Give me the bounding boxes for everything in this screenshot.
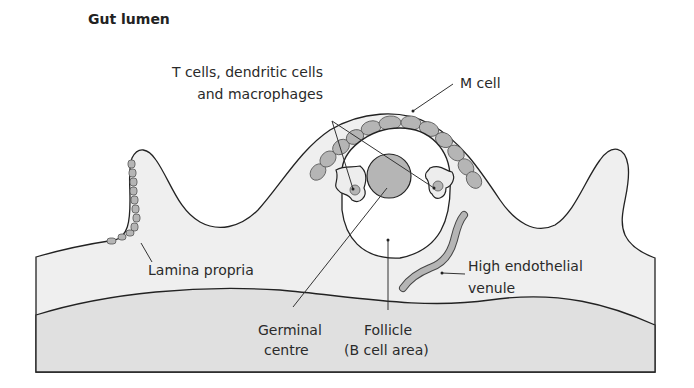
label-lamina-propria: Lamina propria (148, 262, 254, 279)
germinal-centre (367, 154, 411, 198)
label-germinal-2: centre (264, 342, 309, 359)
peyers-patch-diagram (0, 0, 694, 388)
label-follicle-2: (B cell area) (344, 342, 429, 359)
label-t-cells-2: and macrophages (160, 86, 323, 103)
label-hev-2: venule (468, 280, 515, 297)
dendritic-nucleus-left (350, 185, 360, 195)
label-hev-1: High endothelial (468, 258, 583, 275)
label-t-cells-1: T cells, dendritic cells (160, 64, 323, 81)
label-follicle-1: Follicle (364, 322, 412, 339)
dendritic-nucleus-right (433, 181, 443, 191)
label-germinal-1: Germinal (258, 322, 322, 339)
title-gut-lumen: Gut lumen (88, 11, 170, 28)
label-m-cell: M cell (460, 75, 501, 92)
submucosa (36, 288, 655, 372)
